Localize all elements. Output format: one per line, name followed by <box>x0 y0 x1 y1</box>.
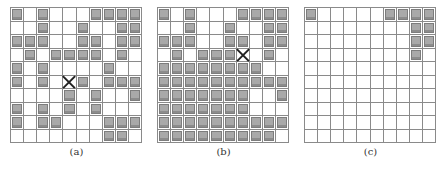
empty-cell <box>250 22 263 36</box>
empty-cell <box>77 130 90 144</box>
empty-cell <box>305 22 318 36</box>
filled-cell <box>116 76 129 90</box>
empty-cell <box>116 89 129 103</box>
filled-cell <box>11 116 24 130</box>
empty-cell <box>318 22 331 36</box>
filled-cell <box>184 103 197 117</box>
empty-cell <box>397 22 410 36</box>
empty-cell <box>63 22 76 36</box>
empty-cell <box>371 89 384 103</box>
empty-cell <box>331 8 344 22</box>
empty-cell <box>63 130 76 144</box>
filled-cell <box>237 8 250 22</box>
filled-cell <box>276 8 289 22</box>
empty-cell <box>384 130 397 144</box>
filled-cell <box>250 8 263 22</box>
filled-cell <box>197 116 210 130</box>
filled-cell <box>50 49 63 63</box>
empty-cell <box>397 116 410 130</box>
empty-cell <box>276 49 289 63</box>
filled-cell <box>224 103 237 117</box>
filled-cell <box>184 130 197 144</box>
empty-cell <box>331 76 344 90</box>
filled-cell <box>276 89 289 103</box>
filled-cell <box>77 76 90 90</box>
empty-cell <box>423 130 436 144</box>
empty-cell <box>103 103 116 117</box>
empty-cell <box>384 89 397 103</box>
filled-cell <box>90 103 103 117</box>
filled-cell <box>263 116 276 130</box>
empty-cell <box>344 89 357 103</box>
filled-cell <box>37 22 50 36</box>
filled-cell <box>184 76 197 90</box>
empty-cell <box>37 49 50 63</box>
empty-cell <box>158 22 171 36</box>
empty-cell <box>276 130 289 144</box>
filled-cell <box>410 8 423 22</box>
empty-cell <box>318 103 331 117</box>
empty-cell <box>357 22 370 36</box>
filled-cell <box>11 8 24 22</box>
empty-cell <box>423 76 436 90</box>
panel-label-b: (b) <box>157 146 290 157</box>
filled-cell <box>237 130 250 144</box>
filled-cell <box>250 130 263 144</box>
filled-cell <box>24 35 37 49</box>
empty-cell <box>357 103 370 117</box>
filled-cell <box>50 116 63 130</box>
filled-cell <box>384 8 397 22</box>
filled-cell <box>116 22 129 36</box>
filled-cell <box>237 103 250 117</box>
filled-cell <box>37 62 50 76</box>
empty-cell <box>344 49 357 63</box>
empty-cell <box>305 76 318 90</box>
panel-b <box>157 7 290 143</box>
empty-cell <box>410 89 423 103</box>
empty-cell <box>371 103 384 117</box>
filled-cell <box>37 76 50 90</box>
empty-cell <box>250 35 263 49</box>
empty-cell <box>357 49 370 63</box>
empty-cell <box>423 103 436 117</box>
empty-cell <box>129 103 142 117</box>
empty-cell <box>331 49 344 63</box>
empty-cell <box>357 8 370 22</box>
empty-cell <box>77 89 90 103</box>
filled-cell <box>77 35 90 49</box>
filled-cell <box>224 49 237 63</box>
filled-cell <box>63 89 76 103</box>
filled-cell <box>210 62 223 76</box>
filled-cell <box>237 35 250 49</box>
filled-cell <box>197 130 210 144</box>
filled-cell <box>116 35 129 49</box>
empty-cell <box>24 22 37 36</box>
panel-a <box>10 7 143 143</box>
filled-cell <box>250 62 263 76</box>
empty-cell <box>263 62 276 76</box>
cross-mark-icon <box>237 49 250 63</box>
empty-cell <box>197 35 210 49</box>
filled-cell <box>37 35 50 49</box>
filled-cell <box>224 35 237 49</box>
empty-cell <box>50 130 63 144</box>
empty-cell <box>77 62 90 76</box>
empty-cell <box>197 22 210 36</box>
filled-cell <box>210 130 223 144</box>
empty-cell <box>423 49 436 63</box>
filled-cell <box>77 49 90 63</box>
empty-cell <box>63 116 76 130</box>
filled-cell <box>263 35 276 49</box>
empty-cell <box>77 116 90 130</box>
filled-cell <box>158 130 171 144</box>
empty-cell <box>158 49 171 63</box>
empty-cell <box>129 130 142 144</box>
empty-cell <box>263 103 276 117</box>
empty-cell <box>63 8 76 22</box>
filled-cell <box>171 76 184 90</box>
filled-cell <box>129 76 142 90</box>
empty-cell <box>50 35 63 49</box>
empty-cell <box>103 35 116 49</box>
filled-cell <box>250 116 263 130</box>
empty-cell <box>24 116 37 130</box>
